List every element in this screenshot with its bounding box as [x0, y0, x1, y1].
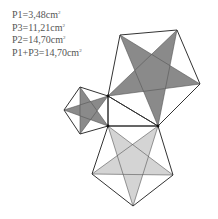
pythagorean-pentagram-figure	[0, 0, 218, 219]
large-star	[108, 30, 200, 126]
vertex-dot	[157, 125, 160, 128]
vertex-dot	[107, 125, 110, 128]
vertex-dot	[107, 95, 110, 98]
